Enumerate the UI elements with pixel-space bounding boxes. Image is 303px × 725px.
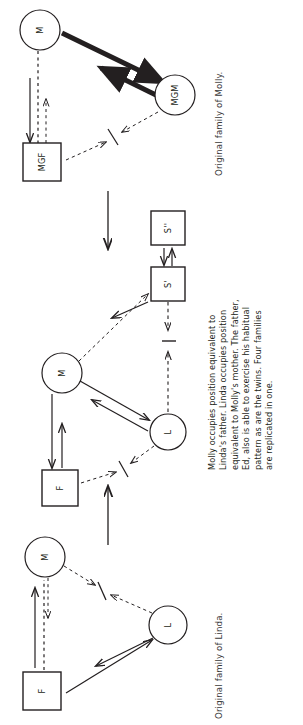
node-label-molly-MGF: MGF <box>37 153 47 172</box>
edge-mid-s1-to-m <box>112 302 148 318</box>
edge-mid-m-to-s1 <box>79 294 148 361</box>
caption-line: Ed, also is able to exercise his habitua… <box>241 255 252 470</box>
edge-molly-mgf-to-conflict <box>66 142 106 160</box>
node-label-lin-L: L <box>163 622 173 627</box>
edge-lin-m-to-conflict <box>64 566 95 585</box>
molly-family-group: M MGM MGF <box>20 10 195 181</box>
caption-combined-family: Molly occupies position equivalent to Li… <box>207 255 275 470</box>
caption-line: Linda's father. Linda occupies position <box>218 255 229 470</box>
caption-molly-family: Original family of Molly. <box>214 72 224 176</box>
conflict-marker-molly <box>108 129 118 145</box>
edge-mid-m-to-l <box>80 381 149 420</box>
conflict-marker-mid-parents <box>119 461 128 477</box>
node-label-molly-MGM: MGM <box>170 84 180 105</box>
caption-line: are replicated in one. <box>264 255 275 470</box>
node-label-mid-F: F <box>55 485 65 490</box>
edge-lin-l-to-conflict <box>111 595 152 613</box>
linda-family-group: M L F <box>23 537 187 710</box>
edge-mid-l-to-conflict <box>131 446 154 463</box>
caption-line: pattern as are the twins. Four families <box>253 255 264 470</box>
conflict-marker-linda <box>98 582 106 600</box>
node-label-lin-M: M <box>40 553 50 560</box>
node-label-mid-S2: S'' <box>163 223 173 233</box>
caption-line: equivalent to Molly's mother. The father… <box>230 255 241 470</box>
caption-linda-family: Original family of Linda. <box>214 613 224 719</box>
node-label-mid-S1: S' <box>163 280 173 288</box>
figure-canvas: M MGM MGF S'' S' <box>0 0 303 725</box>
edge-mid-l-to-m <box>92 400 148 431</box>
node-label-mid-M: M <box>57 369 67 376</box>
edge-lin-f-to-l <box>66 640 152 693</box>
caption-line: Molly occupies position equivalent to <box>207 255 218 470</box>
combined-family-group: S'' S' M L F <box>42 211 186 506</box>
edge-mid-f-to-conflict <box>81 472 116 483</box>
node-label-lin-F: F <box>37 688 47 693</box>
node-label-molly-M: M <box>35 26 45 33</box>
edge-molly-mgm-to-conflict <box>122 112 158 132</box>
node-label-mid-L: L <box>163 429 173 434</box>
edge-lin-l-to-f <box>96 638 153 666</box>
edge-molly-mgm-thick <box>62 33 163 97</box>
